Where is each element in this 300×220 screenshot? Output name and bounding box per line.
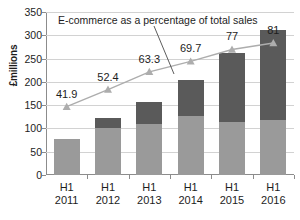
bar-segment-upper[interactable] [178, 80, 204, 116]
y-tick-mark [42, 128, 46, 129]
bar-segment-lower[interactable] [260, 120, 286, 175]
gridline [46, 152, 294, 153]
data-point-marker[interactable] [228, 45, 236, 52]
x-tick-label-line: 2011 [44, 194, 90, 207]
x-tick-label-line: H1 [209, 181, 255, 194]
series-annotation: E-commerce as a percentage of total sale… [58, 14, 258, 26]
x-tick-label: H12016 [250, 181, 296, 207]
bar-segment-upper[interactable] [136, 102, 162, 123]
data-point-marker[interactable] [63, 103, 71, 110]
gridline [46, 12, 294, 13]
bar-segment-lower[interactable] [136, 124, 162, 175]
gridline [46, 82, 294, 83]
data-point-label: 63.3 [139, 53, 160, 65]
bar-column[interactable] [178, 80, 204, 175]
x-tick-label: H12014 [168, 181, 214, 207]
data-point-label: 52.4 [97, 71, 118, 83]
bar-segment-upper[interactable] [95, 118, 121, 129]
x-tick-label: H12015 [209, 181, 255, 207]
gridline [46, 128, 294, 129]
bar-segment-upper[interactable] [219, 53, 245, 122]
data-point-label: 69.7 [180, 42, 201, 54]
x-tick-label-line: 2013 [126, 194, 172, 207]
gridline [46, 35, 294, 36]
chart-container: £millions 05010015020025030035041.952.46… [0, 0, 300, 220]
y-tick-mark [42, 59, 46, 60]
bar-segment-lower[interactable] [219, 122, 245, 175]
data-point-marker[interactable] [104, 86, 112, 93]
bar-segment-upper[interactable] [260, 30, 286, 120]
y-tick-mark [42, 12, 46, 13]
bar-column[interactable] [219, 53, 245, 175]
bar-segment-lower[interactable] [95, 128, 121, 175]
y-tick-label: 50 [8, 146, 42, 158]
y-tick-mark [42, 152, 46, 153]
x-tick-label-line: 2012 [85, 194, 131, 207]
y-tick-label: 150 [8, 99, 42, 111]
x-tick-label-line: 2015 [209, 194, 255, 207]
x-tick-label-line: H1 [250, 181, 296, 194]
x-tick-label: H12012 [85, 181, 131, 207]
y-tick-label: 250 [8, 53, 42, 65]
x-tick-label-line: H1 [168, 181, 214, 194]
line-series [46, 12, 294, 175]
bar-segment-lower[interactable] [54, 139, 80, 175]
x-tick-mark [211, 175, 212, 179]
x-tick-label: H12011 [44, 181, 90, 207]
x-tick-mark [87, 175, 88, 179]
x-tick-label-line: 2016 [250, 194, 296, 207]
y-tick-mark [42, 105, 46, 106]
plot-area: 05010015020025030035041.952.463.369.7778… [46, 12, 294, 175]
annotation-leader-line [154, 26, 174, 74]
bar-column[interactable] [260, 30, 286, 175]
x-tick-label-line: H1 [85, 181, 131, 194]
x-tick-mark [170, 175, 171, 179]
data-point-label: 77 [226, 30, 238, 42]
x-tick-label-line: 2014 [168, 194, 214, 207]
y-tick-label: 100 [8, 122, 42, 134]
bar-column[interactable] [136, 102, 162, 175]
y-tick-mark [42, 175, 46, 176]
bar-segment-lower[interactable] [178, 116, 204, 175]
data-point-label: 81 [267, 24, 279, 36]
x-tick-label-line: H1 [126, 181, 172, 194]
data-point-label: 41.9 [56, 88, 77, 100]
x-tick-label: H12013 [126, 181, 172, 207]
data-point-marker[interactable] [145, 68, 153, 75]
x-tick-mark [253, 175, 254, 179]
gridline [46, 105, 294, 106]
x-tick-label-line: H1 [44, 181, 90, 194]
gridline [46, 59, 294, 60]
y-tick-mark [42, 35, 46, 36]
bar-column[interactable] [54, 139, 80, 175]
y-tick-label: 350 [8, 6, 42, 18]
x-tick-mark [129, 175, 130, 179]
y-tick-mark [42, 82, 46, 83]
bar-column[interactable] [95, 118, 121, 175]
y-tick-label: 200 [8, 76, 42, 88]
y-tick-label: 300 [8, 29, 42, 41]
x-tick-mark [294, 175, 295, 179]
y-axis-line [46, 12, 47, 175]
y-tick-label: 0 [8, 169, 42, 181]
